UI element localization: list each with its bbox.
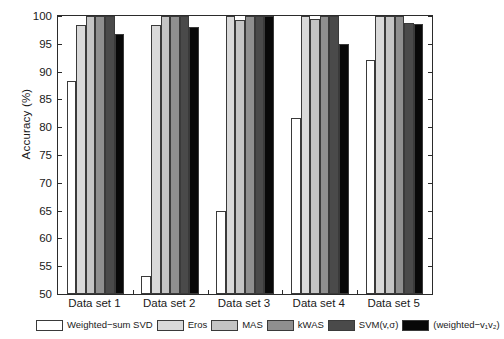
y-tick-label: 60 — [39, 234, 52, 246]
bar — [375, 16, 385, 294]
y-tick-label: 95 — [39, 39, 52, 51]
bars-layer — [58, 16, 432, 294]
x-axis-label: Data set 3 — [218, 297, 270, 309]
legend-swatch — [211, 320, 238, 331]
legend-swatch — [157, 320, 184, 331]
x-axis-label: Data set 4 — [293, 297, 345, 309]
y-tick-mark-right — [428, 294, 433, 295]
y-tick-label: 50 — [39, 289, 52, 301]
bar — [245, 16, 255, 294]
legend-label: (weighted−v₁v₂) — [433, 320, 499, 330]
bar — [264, 16, 274, 294]
legend-label: Weighted−sum SVD — [67, 320, 153, 330]
bar — [235, 20, 245, 294]
bar — [216, 211, 226, 294]
x-axis-label: Data set 2 — [143, 297, 195, 309]
legend-entry: (weighted−v₁v₂) — [402, 320, 499, 331]
y-axis-title: Accuracy (%) — [20, 54, 32, 194]
bar — [329, 16, 339, 294]
legend-entry: MAS — [211, 320, 263, 331]
y-tick-label: 100 — [33, 11, 52, 23]
plot-area: 50556065707580859095100 — [57, 15, 433, 295]
bar — [115, 34, 125, 294]
legend-entry: SVM(v,σ) — [328, 320, 398, 331]
bar — [141, 276, 151, 294]
legend-label: MAS — [242, 320, 263, 330]
x-axis-label: Data set 1 — [68, 297, 120, 309]
bar — [366, 60, 376, 294]
bar — [291, 118, 301, 294]
legend-entry: Weighted−sum SVD — [36, 320, 153, 331]
legend-swatch — [328, 320, 355, 331]
y-tick-label: 80 — [39, 122, 52, 134]
legend-swatch — [402, 320, 429, 331]
x-tick-mark — [282, 290, 283, 295]
bar — [170, 16, 180, 294]
bar — [105, 16, 115, 294]
bar — [255, 16, 265, 294]
legend-entry: Eros — [157, 320, 208, 331]
bar — [161, 16, 171, 294]
legend-entry: kWAS — [267, 320, 324, 331]
y-tick-label: 85 — [39, 95, 52, 107]
legend-label: SVM(v,σ) — [359, 320, 398, 330]
y-tick-label: 55 — [39, 261, 52, 273]
bar — [301, 16, 311, 294]
bar — [86, 16, 96, 294]
bar — [151, 25, 161, 294]
bar — [320, 16, 330, 294]
y-tick-label: 65 — [39, 206, 52, 218]
y-tick-mark: 50 — [57, 294, 62, 295]
bar — [310, 19, 320, 294]
legend-swatch — [267, 320, 294, 331]
y-tick-label: 75 — [39, 150, 52, 162]
bar — [385, 16, 395, 294]
bar — [67, 81, 77, 295]
bar — [95, 16, 105, 294]
y-tick-label: 90 — [39, 67, 52, 79]
bar — [414, 24, 424, 294]
legend-label: kWAS — [298, 320, 324, 330]
bar — [339, 44, 349, 294]
bar — [76, 25, 86, 294]
bar — [404, 23, 414, 294]
x-tick-mark — [133, 290, 134, 295]
legend-label: Eros — [188, 320, 208, 330]
y-tick-label: 70 — [39, 178, 52, 190]
chart-legend: Weighted−sum SVDErosMASkWASSVM(v,σ)(weig… — [36, 317, 504, 333]
bar — [226, 16, 236, 294]
bar — [189, 27, 199, 294]
x-axis-labels: Data set 1Data set 2Data set 3Data set 4… — [57, 297, 433, 315]
bar — [395, 16, 405, 294]
bar — [180, 16, 190, 294]
legend-swatch — [36, 320, 63, 331]
x-axis-label: Data set 5 — [367, 297, 419, 309]
x-tick-mark — [357, 290, 358, 295]
x-tick-mark — [208, 290, 209, 295]
